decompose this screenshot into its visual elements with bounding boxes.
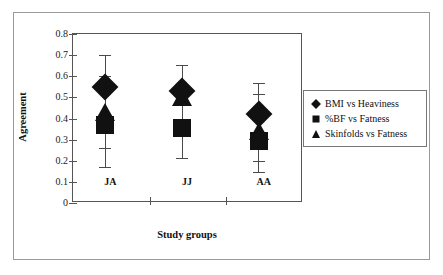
legend-triangle-icon [310,128,321,139]
y-axis-tick-label: 0.7 [56,50,69,60]
legend-label: %BF vs Fatness [325,114,389,124]
y-axis-title: Agreement [17,92,28,141]
y-axis-tick-label: 0.1 [56,177,69,187]
x-axis-tick-label: JA [104,176,116,187]
y-axis-tick-mark [69,76,77,77]
marker-square-pct-bf-vs-fatness [173,119,191,137]
figure-container: 00.10.20.30.40.50.60.70.8 JAJJAA Agreeme… [0,0,443,275]
y-axis-tick-label: 0 [63,198,68,208]
x-axis-tick-mark [150,197,151,205]
x-axis-title: Study groups [72,229,302,240]
y-axis-tick-label: 0.8 [56,29,69,39]
x-axis-tick-label: AA [256,176,270,187]
y-axis-tick-mark [69,97,77,98]
y-axis-tick-mark [69,182,77,183]
legend-entry: %BF vs Fatness [310,111,421,126]
y-axis-tick-mark [69,203,77,204]
triangle-glyph [312,130,320,138]
error-bar-cap [99,148,111,149]
error-bar-cap [253,161,265,162]
error-bar-cap [176,158,188,159]
legend-diamond-icon [310,98,321,109]
legend-label: Skinfolds vs Fatness [325,129,407,139]
error-bar-cap [99,55,111,56]
y-axis-tick-label: 0.4 [56,114,69,124]
y-axis-tick-mark [69,140,77,141]
error-bar-cap [99,167,111,168]
legend-square-icon [310,113,321,124]
legend-label: BMI vs Heaviness [325,99,399,109]
error-bar-cap [253,172,265,173]
y-axis-tick-label: 0.3 [56,135,69,145]
legend-box: BMI vs Heaviness%BF vs FatnessSkinfolds … [303,90,427,147]
y-axis-tick-mark [69,34,77,35]
error-bar-cap [253,83,265,84]
y-axis-tick-label: 0.5 [56,92,69,102]
y-axis-tick-mark [69,55,77,56]
x-axis-tick-mark [226,197,227,205]
marker-triangle-skinfolds-vs-fatness [95,103,115,121]
y-axis-tick-label: 0.2 [56,156,69,166]
legend-entry: Skinfolds vs Fatness [310,126,421,141]
y-axis-tick-mark [69,161,77,162]
marker-diamond-bmi-vs-heaviness [92,73,119,100]
y-axis-tick-mark [69,119,77,120]
square-glyph [312,115,319,122]
diamond-glyph [311,99,321,109]
y-axis-tick-label: 0.6 [56,71,69,81]
x-axis-tick-label: JJ [182,176,192,187]
error-bar-cap [253,94,265,95]
error-bar-cap [176,65,188,66]
legend-entry: BMI vs Heaviness [310,96,421,111]
